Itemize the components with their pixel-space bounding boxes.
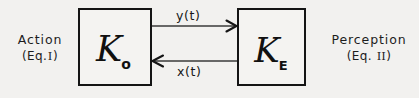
signal-label-x: x(t) [177,64,201,79]
signal-label-y: y(t) [176,8,200,23]
signal-arrows [0,0,419,98]
block-diagram: Action (Eq.I) Perception (Eq. II) Ko KE … [0,0,419,98]
